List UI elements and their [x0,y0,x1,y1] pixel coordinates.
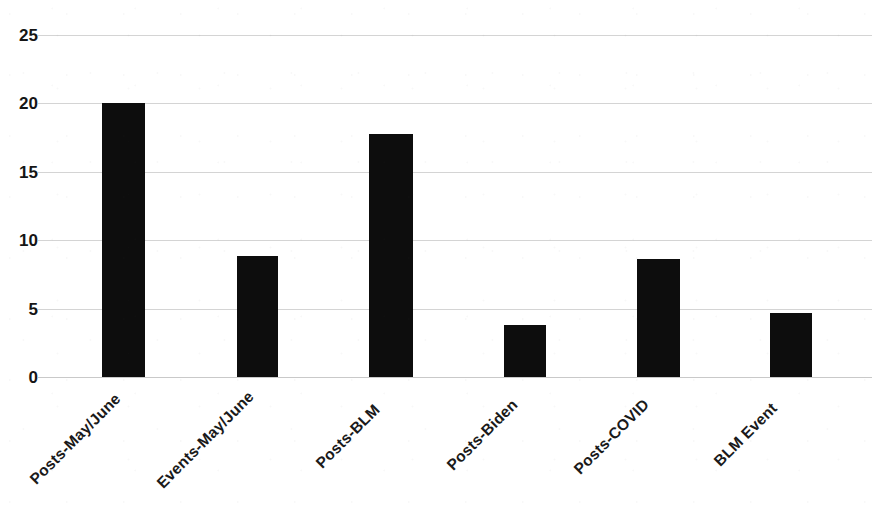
x-label-posts-covid: Posts-COVID [570,396,652,478]
y-tick-label-10: 10 [0,232,38,249]
y-tick-label-15: 15 [0,164,38,181]
y-tick-label-20: 20 [0,95,38,112]
gridline-5 [38,309,872,310]
x-label-posts-biden: Posts-Biden [443,396,521,474]
x-label-events-may-june: Events-May/June [153,388,257,492]
bar-posts-covid[interactable] [637,259,680,377]
plot-area [38,35,872,377]
x-label-posts-may-june: Posts-May/June [26,390,124,488]
axis-baseline [38,377,872,378]
gridline-10 [38,240,872,241]
gridline-15 [38,172,872,173]
y-tick-label-25: 25 [0,27,38,44]
bar-events-may-june[interactable] [237,256,278,377]
y-tick-label-5: 5 [0,301,38,318]
gridline-25 [38,35,872,36]
y-tick-label-0: 0 [0,369,38,386]
x-label-blm-event: BLM Event [710,399,781,470]
gridline-20 [38,103,872,104]
x-label-posts-blm: Posts-BLM [312,401,383,472]
bar-posts-biden[interactable] [504,325,546,377]
bar-blm-event[interactable] [770,313,812,377]
bar-posts-blm[interactable] [369,134,413,377]
bar-chart: 25 20 15 10 5 0 Posts-May/June Events-Ma… [0,0,878,505]
bar-posts-may-june[interactable] [102,103,145,377]
